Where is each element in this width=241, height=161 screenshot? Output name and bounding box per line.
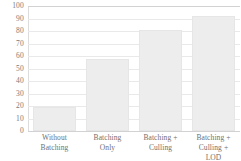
bar [33, 107, 76, 131]
y-axis-tick-label: 10 [16, 115, 24, 123]
x-axis-label-line: Batching + [134, 133, 187, 143]
y-axis-tick-label: 0 [20, 127, 24, 135]
bar-chart: 1009080706050403020100 WithoutBatchingBa… [0, 0, 241, 161]
x-axis-label-line: Without [28, 133, 81, 143]
x-axis-label-line: Only [81, 143, 134, 153]
y-axis-tick-label: 70 [16, 40, 24, 48]
x-axis-label-line: Culling [134, 143, 187, 153]
y-axis-tick-label: 90 [16, 15, 24, 23]
x-axis-label-line: LOD [187, 153, 240, 161]
y-axis-tick-label: 50 [16, 65, 24, 73]
x-axis-label-line: Culling + [187, 143, 240, 153]
x-axis-label-line: Batching + [187, 133, 240, 143]
y-axis-tick-label: 60 [16, 52, 24, 60]
x-axis-category-label: Batching +Culling [134, 133, 187, 153]
x-axis-category-label: BatchingOnly [81, 133, 134, 153]
x-axis-label-line: Batching [81, 133, 134, 143]
x-axis-category-labels: WithoutBatchingBatchingOnlyBatching +Cul… [28, 133, 240, 161]
bar [139, 30, 182, 131]
x-axis-category-label: WithoutBatching [28, 133, 81, 153]
x-axis-label-line: Batching [28, 143, 81, 153]
y-axis-tick-label: 20 [16, 102, 24, 110]
gridline [28, 131, 240, 132]
bar [192, 16, 235, 131]
x-axis-category-label: Batching +Culling +LOD [187, 133, 240, 161]
y-axis-tick-label: 80 [16, 27, 24, 35]
y-axis-tick-label: 30 [16, 90, 24, 98]
plot-area: 1009080706050403020100 [28, 6, 240, 131]
y-axis-tick-label: 100 [12, 2, 24, 10]
bar-series [28, 6, 240, 131]
bar [86, 59, 129, 132]
y-axis-tick-label: 40 [16, 77, 24, 85]
